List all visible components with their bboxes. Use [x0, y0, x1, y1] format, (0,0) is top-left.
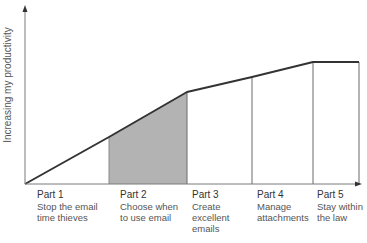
part-label-2: Part 2 Choose when to use email — [120, 189, 178, 223]
part-label-4: Part 4 Manage attachments — [257, 189, 309, 223]
part-title: Part 2 — [120, 189, 178, 200]
productivity-line — [25, 62, 359, 184]
part-desc: Stay within the law — [317, 201, 363, 223]
part-label-5: Part 5 Stay within the law — [317, 189, 363, 223]
part-title: Part 5 — [317, 189, 363, 200]
part-label-1: Part 1 Stop the email time thieves — [37, 189, 98, 223]
part-desc: Stop the email time thieves — [37, 201, 98, 223]
part-title: Part 4 — [257, 189, 309, 200]
part-desc: Create excellent emails — [192, 201, 230, 234]
part-desc: Choose when to use email — [120, 201, 178, 223]
part-title: Part 1 — [37, 189, 98, 200]
highlight-part-2 — [109, 92, 187, 184]
part-label-3: Part 3 Create excellent emails — [192, 189, 230, 234]
part-title: Part 3 — [192, 189, 230, 200]
part-desc: Manage attachments — [257, 201, 309, 223]
y-axis-arrow-icon — [23, 5, 28, 12]
y-axis-label: Increasing my productivity — [1, 25, 15, 145]
